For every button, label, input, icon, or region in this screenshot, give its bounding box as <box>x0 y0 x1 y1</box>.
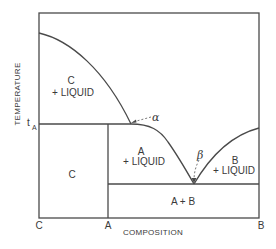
diagram-frame <box>39 13 259 218</box>
alpha-label: α <box>152 111 160 124</box>
region-a-plus-b: A + B <box>171 196 196 207</box>
region-b-liquid: B + LIQUID <box>213 155 255 176</box>
region-c-solid: C <box>68 169 75 180</box>
y-tick-ta: t A <box>27 117 37 131</box>
alpha-arrowhead-icon <box>131 120 137 124</box>
region-c-solid-line1: C <box>68 169 75 180</box>
region-b-liquid-line2: + LIQUID <box>213 165 255 176</box>
region-c-liquid: C + LIQUID <box>52 75 94 98</box>
region-a-plus-b-line1: A + B <box>171 196 196 207</box>
region-a-liquid-line2: + LIQUID <box>123 156 165 167</box>
y-tick-subscript: A <box>32 124 37 131</box>
x-tick-b: B <box>258 220 265 231</box>
y-tick-t: t <box>27 117 30 128</box>
y-axis-label: TEMPERATURE <box>13 62 22 125</box>
x-tick-a: A <box>105 220 112 231</box>
phase-diagram: α β C + LIQUID C A + LIQUID B + LIQUID A… <box>0 0 276 249</box>
region-c-liquid-line1: C <box>67 75 74 86</box>
beta-label: β <box>196 149 203 162</box>
region-a-liquid: A + LIQUID <box>123 146 165 167</box>
x-axis-label: COMPOSITION <box>123 228 183 237</box>
liquidus-c-curve <box>39 33 131 124</box>
region-c-liquid-line2: + LIQUID <box>52 87 94 98</box>
x-tick-c: C <box>35 220 42 231</box>
